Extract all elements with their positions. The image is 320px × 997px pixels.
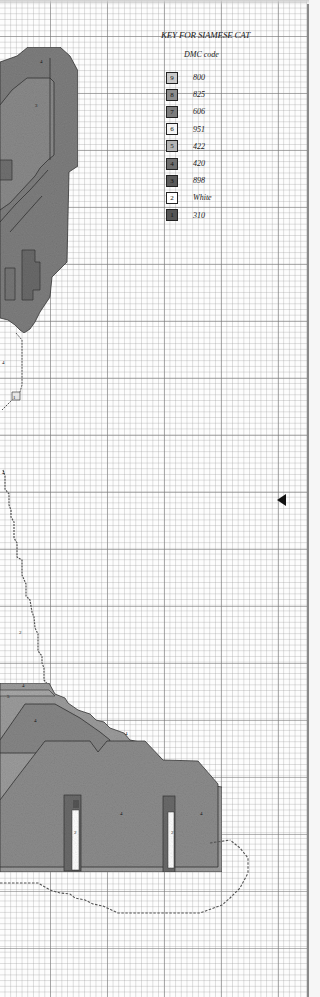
key-row: 5 422 [157, 138, 307, 155]
key-row: 3 898 [157, 172, 307, 189]
stitch-symbol: 4 [2, 360, 5, 365]
dmc-code: 420 [193, 159, 205, 168]
color-swatch: 9 [166, 72, 178, 84]
color-swatch: 5 [166, 140, 178, 152]
key-subtitle: DMC code [184, 50, 307, 59]
dmc-code: 310 [193, 211, 205, 220]
color-swatch: 3 [166, 175, 178, 187]
key-row: 7 606 [157, 103, 307, 120]
dashed-outline-left [3, 470, 49, 688]
key-row: 9 800 [157, 69, 307, 86]
color-swatch: 8 [166, 89, 178, 101]
key-row: 6 951 [157, 121, 307, 138]
color-swatch: 6 [166, 123, 178, 135]
key-row: 4 420 [157, 155, 307, 172]
color-swatch: 2 [166, 192, 178, 204]
stitch-symbol: 2 [19, 630, 22, 635]
key-row: 2 White [157, 189, 307, 206]
chart-page: 43414254442244 KEY FOR SIAMESE CAT DMC c… [0, 0, 320, 997]
color-swatch: 4 [166, 158, 178, 170]
dmc-code: 422 [193, 142, 205, 151]
stitch-key: KEY FOR SIAMESE CAT DMC code 9 800 8 825… [157, 30, 307, 224]
dmc-code: 951 [193, 125, 205, 134]
key-row: 8 825 [157, 86, 307, 103]
dmc-code: 825 [193, 90, 205, 99]
color-swatch: 1 [166, 209, 178, 221]
dmc-code: 606 [193, 107, 205, 116]
dmc-code: White [193, 193, 212, 202]
key-row: 1 310 [157, 207, 307, 224]
center-arrow-icon [277, 494, 286, 506]
dmc-code: 800 [193, 73, 205, 82]
lower-body-region [0, 683, 222, 872]
stitch-symbol: 4 [125, 731, 128, 736]
dmc-code: 898 [193, 176, 205, 185]
upper-body-region [0, 47, 78, 333]
key-title: KEY FOR SIAMESE CAT [161, 30, 307, 40]
color-swatch: 7 [166, 106, 178, 118]
